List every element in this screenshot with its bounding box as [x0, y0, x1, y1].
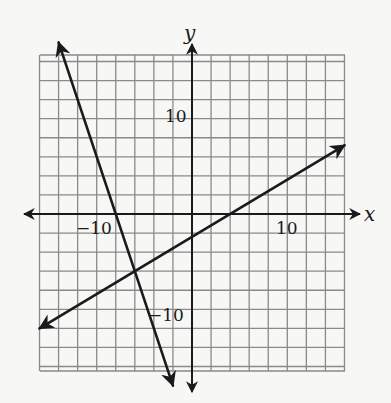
x-tick-label-neg10: −10	[76, 218, 112, 238]
x-axis-label: x	[364, 202, 375, 226]
y-axis-label: y	[183, 21, 196, 45]
axes	[24, 44, 360, 392]
coordinate-plane: x y −10 10 10 −10	[0, 0, 391, 403]
y-tick-label-10: 10	[165, 106, 187, 126]
y-tick-label-neg10: −10	[148, 305, 184, 325]
x-tick-label-10: 10	[276, 218, 298, 238]
